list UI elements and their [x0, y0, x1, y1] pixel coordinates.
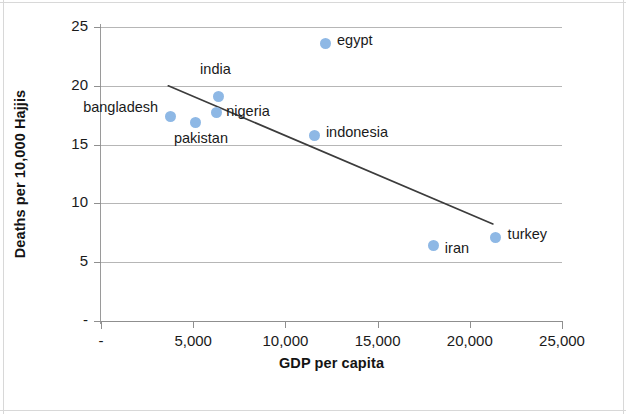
- data-point-egypt[interactable]: [320, 38, 331, 49]
- data-point-indonesia[interactable]: [309, 130, 320, 141]
- data-label-pakistan: pakistan: [174, 130, 228, 146]
- data-label-indonesia: indonesia: [326, 124, 388, 140]
- gridline-y-15: [101, 145, 562, 146]
- data-point-turkey[interactable]: [490, 232, 501, 243]
- x-tick-0: [101, 322, 102, 329]
- data-label-india: india: [200, 61, 231, 77]
- data-label-turkey: turkey: [508, 226, 548, 242]
- data-label-nigeria: nigeria: [226, 103, 270, 119]
- x-tick-10000: [285, 322, 286, 328]
- x-tick-label-10000: 10,000: [262, 332, 308, 349]
- data-label-iran: iran: [445, 240, 469, 256]
- x-tick-label-0: -: [99, 332, 104, 349]
- figure-border-bottom: [0, 410, 626, 411]
- x-tick-20000: [470, 322, 471, 328]
- data-point-india[interactable]: [213, 91, 224, 102]
- y-tick-25: [94, 27, 101, 28]
- gridline-y-20: [101, 86, 562, 87]
- x-tick-label-15000: 15,000: [355, 332, 401, 349]
- y-tick-15: [94, 145, 101, 146]
- gridline-y-5: [101, 262, 562, 263]
- data-point-nigeria[interactable]: [211, 107, 222, 118]
- figure-border-top: [0, 2, 626, 3]
- x-axis-title: GDP per capita: [101, 355, 562, 371]
- trendline-svg: [0, 0, 626, 414]
- y-tick-10: [94, 203, 101, 204]
- gridline-y-10: [101, 203, 562, 204]
- x-tick-label-20000: 20,000: [447, 332, 493, 349]
- figure-border-right: [623, 0, 624, 414]
- x-tick-15000: [378, 322, 379, 328]
- x-tick-5000: [193, 322, 194, 328]
- x-tick-25000: [562, 322, 563, 329]
- x-tick-label-25000: 25,000: [539, 332, 585, 349]
- x-tick-label-5000: 5,000: [174, 332, 212, 349]
- data-point-pakistan[interactable]: [190, 117, 201, 128]
- gridline-y-25: [101, 27, 562, 28]
- scatter-chart-figure: -510152025 -5,00010,00015,00020,00025,00…: [0, 0, 626, 414]
- y-tick-0: [94, 321, 101, 322]
- x-axis-line: [101, 321, 563, 322]
- y-tick-5: [94, 262, 101, 263]
- data-label-egypt: egypt: [337, 32, 372, 48]
- data-point-iran[interactable]: [428, 240, 439, 251]
- data-point-bangladesh[interactable]: [165, 111, 176, 122]
- y-tick-20: [94, 86, 101, 87]
- y-axis-title: Deaths per 10,000 Hajjis: [6, 27, 34, 321]
- y-axis-line: [100, 24, 101, 324]
